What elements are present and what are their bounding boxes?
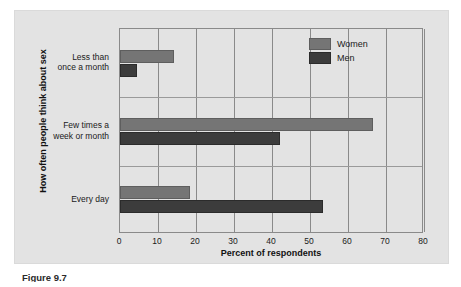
figure-caption: Figure 9.7 [22, 272, 67, 282]
legend-label-men: Men [337, 53, 355, 63]
figure-root: How often people think about sex 0102030… [0, 0, 461, 287]
category-label-line: week or month [21, 131, 109, 142]
category-separator [120, 97, 422, 98]
bar-women-0 [120, 50, 174, 63]
bar-women-2 [120, 186, 190, 199]
category-label-1: Few times aweek or month [21, 120, 109, 141]
legend-item-men: Men [309, 51, 368, 64]
category-label-2: Every day [21, 194, 109, 205]
x-tick-label-0: 0 [117, 236, 122, 246]
legend: Women Men [309, 37, 368, 64]
legend-item-women: Women [309, 37, 368, 50]
bar-men-1 [120, 132, 280, 145]
category-label-line: Less than [21, 52, 109, 63]
gridline-80 [424, 29, 425, 232]
x-axis-title: Percent of respondents [119, 248, 423, 258]
category-separator [120, 166, 422, 167]
x-tick-label-70: 70 [380, 236, 389, 246]
legend-label-women: Women [337, 39, 368, 49]
x-tick-label-30: 30 [228, 236, 237, 246]
x-axis-tick-labels: 01020304050607080 [119, 236, 423, 248]
category-label-line: once a month [21, 62, 109, 73]
category-label-0: Less thanonce a month [21, 52, 109, 73]
bar-women-1 [120, 118, 373, 131]
x-tick-label-60: 60 [342, 236, 351, 246]
x-tick-label-10: 10 [152, 236, 161, 246]
x-tick-label-20: 20 [190, 236, 199, 246]
x-tick-label-50: 50 [304, 236, 313, 246]
bar-men-0 [120, 64, 137, 77]
plot-area [119, 28, 423, 233]
legend-swatch-women-icon [309, 38, 331, 50]
bar-men-2 [120, 200, 323, 213]
gridline-70 [386, 29, 387, 232]
x-tick-label-40: 40 [266, 236, 275, 246]
legend-swatch-men-icon [309, 52, 331, 64]
category-label-line: Few times a [21, 120, 109, 131]
x-tick-label-80: 80 [418, 236, 427, 246]
chart-panel: How often people think about sex 0102030… [14, 10, 449, 264]
category-label-line: Every day [21, 194, 109, 205]
